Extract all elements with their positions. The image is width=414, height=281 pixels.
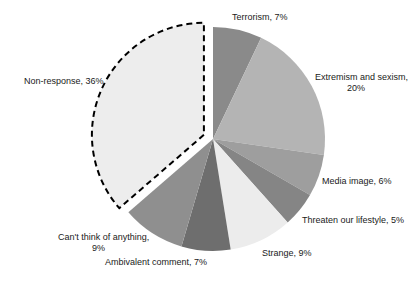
label-strange: Strange, 9% (262, 248, 312, 258)
label-extremism-line2: 20% (347, 83, 365, 93)
label-media-image: Media image, 6% (322, 176, 392, 186)
pie-chart: Terrorism, 7% Extremism and sexism, 20% … (0, 0, 414, 281)
label-threaten-lifestyle: Threaten our lifestyle, 5% (302, 215, 404, 225)
label-cant-think-line1: Can't think of anything, (58, 232, 149, 242)
pie-slices (92, 23, 325, 251)
label-terrorism: Terrorism, 7% (232, 12, 288, 22)
label-cant-think-line2: 9% (92, 243, 105, 253)
label-non-response: Non-response, 36% (24, 76, 104, 86)
label-extremism-line1: Extremism and sexism, (315, 72, 408, 82)
label-ambivalent: Ambivalent comment, 7% (105, 257, 207, 267)
